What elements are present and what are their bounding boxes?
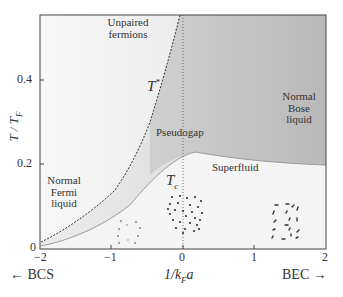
x-tick-neg2: −2 <box>34 250 47 265</box>
unpaired-fermions-label: Unpaired fermions <box>98 17 158 40</box>
x-tick-0: 0 <box>179 250 185 265</box>
phase-diagram <box>0 0 343 297</box>
superfluid-label: Superfluid <box>212 162 258 174</box>
bec-label: BEC → <box>282 268 327 283</box>
y-tick-0.2: 0.2 <box>17 156 32 171</box>
pseudogap-label: Pseudogap <box>156 127 204 139</box>
normal-fermi-liquid-label: Normal Fermi liquid <box>44 175 84 210</box>
normal-bose-liquid-label: Normal Bose liquid <box>276 91 322 126</box>
y-tick-0.4: 0.4 <box>17 72 32 87</box>
x-tick-neg1: −1 <box>104 250 117 265</box>
tc-annotation: Tc <box>166 173 178 191</box>
x-tick-1: 1 <box>251 250 257 265</box>
x-tick-2: 2 <box>322 250 328 265</box>
bcs-label: ← BCS <box>10 268 54 283</box>
x-axis-label: 1/kFa <box>164 268 194 285</box>
y-axis-label: T / TF <box>7 97 24 157</box>
tstar-annotation: T* <box>147 78 160 95</box>
